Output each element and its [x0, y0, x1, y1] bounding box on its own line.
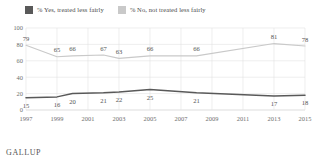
data-point-label: 63 — [116, 48, 123, 55]
data-point-label: 15 — [23, 102, 30, 109]
legend-item-yes: % Yes, treated less fairly — [25, 6, 104, 14]
legend-label-no: % No, not treated less fairly — [130, 7, 206, 14]
x-axis-tick-label: 2009 — [206, 115, 219, 122]
square-swatch-light-icon — [118, 6, 126, 14]
x-axis-tick-label: 2005 — [144, 115, 157, 122]
data-point-label: 66 — [147, 45, 154, 52]
x-axis-tick-label: 2007 — [175, 115, 189, 122]
data-point-label: 65 — [54, 46, 61, 53]
chart-legend: % Yes, treated less fairly % No, not tre… — [25, 6, 206, 14]
data-point-label: 25 — [147, 94, 154, 101]
data-point-label: 22 — [116, 96, 123, 103]
data-point-label: 81 — [271, 33, 278, 40]
plot-area: 0204060801001997199920012003200520072009… — [0, 22, 312, 134]
data-point-label: 18 — [302, 99, 309, 106]
data-point-label: 17 — [271, 100, 278, 107]
series-line-no — [26, 44, 305, 59]
y-axis-tick-label: 60 — [17, 57, 23, 64]
data-point-label: 21 — [193, 97, 200, 104]
x-axis-tick-label: 2013 — [268, 115, 281, 122]
y-axis-tick-label: 40 — [17, 74, 23, 81]
x-axis-tick-label: 1999 — [51, 115, 64, 122]
data-point-label: 21 — [100, 97, 107, 104]
square-swatch-dark-icon — [25, 6, 33, 14]
x-axis-tick-label: 2001 — [82, 115, 95, 122]
data-point-label: 66 — [69, 45, 76, 52]
y-axis-tick-label: 80 — [17, 41, 23, 48]
x-axis-tick-label: 1997 — [20, 115, 34, 122]
x-axis-tick-label: 2015 — [299, 115, 312, 122]
data-point-label: 66 — [193, 45, 200, 52]
data-point-label: 78 — [302, 36, 309, 43]
data-point-label: 16 — [54, 101, 61, 108]
legend-label-yes: % Yes, treated less fairly — [37, 7, 104, 14]
legend-item-no: % No, not treated less fairly — [118, 6, 206, 14]
chart-svg: 0204060801001997199920012003200520072009… — [0, 22, 312, 134]
gallup-line-chart: % Yes, treated less fairly % No, not tre… — [0, 0, 312, 161]
data-point-label: 20 — [69, 98, 76, 105]
y-axis-tick-label: 20 — [17, 90, 23, 97]
data-point-label: 79 — [23, 35, 30, 42]
x-axis-tick-label: 2003 — [113, 115, 126, 122]
gallup-brand-label: GALLUP — [6, 148, 41, 157]
data-point-label: 67 — [100, 45, 107, 52]
y-axis-tick-label: 100 — [13, 24, 23, 31]
x-axis-tick-label: 2011 — [237, 115, 250, 122]
